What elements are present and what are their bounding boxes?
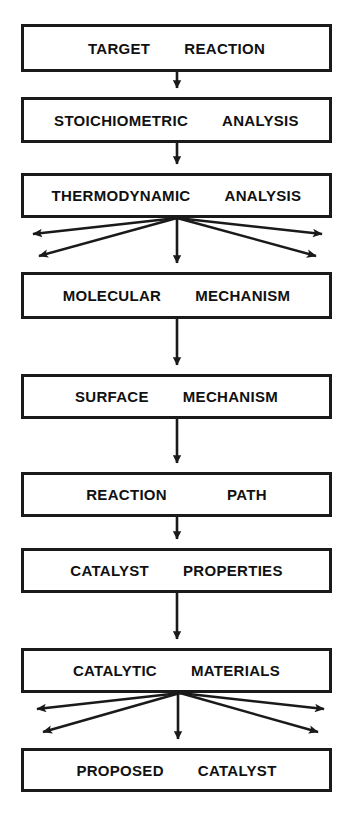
node-label-word1: TARGET <box>88 40 150 57</box>
branch-left-lower-icon <box>39 218 177 256</box>
node-label-word2: ANALYSIS <box>222 112 299 129</box>
branch-right-lower-icon <box>180 693 318 732</box>
branch-right-upper-icon <box>177 218 322 234</box>
node-catalyst-properties[interactable]: CATALYST PROPERTIES <box>21 548 332 593</box>
node-catalytic-materials[interactable]: CATALYTIC MATERIALS <box>21 648 332 693</box>
node-label-word2: ANALYSIS <box>225 187 302 204</box>
node-label-word2: MECHANISM <box>195 287 290 304</box>
node-target-reaction[interactable]: TARGET REACTION <box>21 24 332 72</box>
node-label-word1: CATALYTIC <box>73 662 157 679</box>
node-label-word1: SURFACE <box>75 388 149 405</box>
node-thermodynamic-analysis[interactable]: THERMODYNAMIC ANALYSIS <box>21 173 332 218</box>
branch-right-upper-icon <box>180 693 324 709</box>
node-molecular-mechanism[interactable]: MOLECULAR MECHANISM <box>21 272 332 319</box>
node-label-word2: PROPERTIES <box>183 562 283 579</box>
node-proposed-catalyst[interactable]: PROPOSED CATALYST <box>21 748 332 792</box>
node-label-word1: REACTION <box>86 486 167 503</box>
branch-left-upper-icon <box>33 218 177 234</box>
node-label-word2: REACTION <box>184 40 265 57</box>
node-label-word2: PATH <box>227 486 267 503</box>
node-reaction-path[interactable]: REACTION PATH <box>21 472 332 517</box>
flowchart-diagram: TARGET REACTION STOICHIOMETRIC ANALYSIS … <box>0 0 356 813</box>
branch-left-lower-icon <box>43 693 180 732</box>
node-label-word1: STOICHIOMETRIC <box>54 112 188 129</box>
node-label-word2: MECHANISM <box>183 388 278 405</box>
node-stoichiometric-analysis[interactable]: STOICHIOMETRIC ANALYSIS <box>21 97 332 143</box>
node-label-word1: PROPOSED <box>76 762 163 779</box>
node-label-word1: THERMODYNAMIC <box>52 187 191 204</box>
node-label-word1: CATALYST <box>70 562 149 579</box>
node-label-word1: MOLECULAR <box>63 287 162 304</box>
branch-left-upper-icon <box>37 693 180 709</box>
node-label-word2: MATERIALS <box>191 662 280 679</box>
node-surface-mechanism[interactable]: SURFACE MECHANISM <box>21 374 332 419</box>
fanout-catalytic-materials <box>37 693 324 732</box>
branch-right-lower-icon <box>177 218 316 256</box>
node-label-word2: CATALYST <box>198 762 277 779</box>
